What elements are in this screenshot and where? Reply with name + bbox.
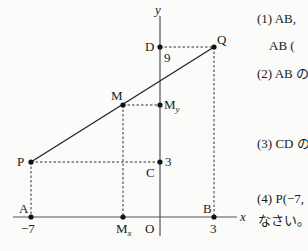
point-B	[211, 214, 216, 219]
question-4: (4) P(−7,	[257, 191, 304, 207]
point-M	[120, 102, 125, 107]
label-A: A	[19, 201, 29, 216]
tick-3-y: 3	[165, 154, 172, 169]
label-B: B	[203, 201, 212, 216]
point-C	[157, 159, 162, 164]
label-P: P	[17, 154, 24, 169]
point-P	[28, 159, 33, 164]
label-C: C	[146, 165, 155, 180]
question-4-cont: なさい。	[258, 210, 308, 229]
tick-3-x: 3	[210, 221, 217, 236]
question-1-answer: AB (	[269, 38, 295, 54]
point-A	[28, 214, 33, 219]
tick-9: 9	[164, 50, 171, 65]
y-axis-label: y	[153, 2, 161, 17]
label-Q: Q	[217, 32, 227, 47]
label-Mx: Mx	[116, 221, 132, 238]
x-axis-label: x	[239, 209, 246, 224]
point-My	[157, 102, 162, 107]
point-Mx	[120, 214, 125, 219]
label-D: D	[145, 39, 154, 54]
point-D	[157, 44, 162, 49]
label-My: My	[164, 97, 180, 114]
tick-minus7: −7	[21, 221, 35, 236]
label-M: M	[111, 88, 123, 103]
question-1: (1) AB,	[257, 11, 296, 27]
origin-label: O	[145, 221, 154, 236]
question-2: (2) AB の	[257, 63, 308, 82]
point-Q	[211, 44, 216, 49]
question-3: (3) CD の	[257, 133, 308, 152]
